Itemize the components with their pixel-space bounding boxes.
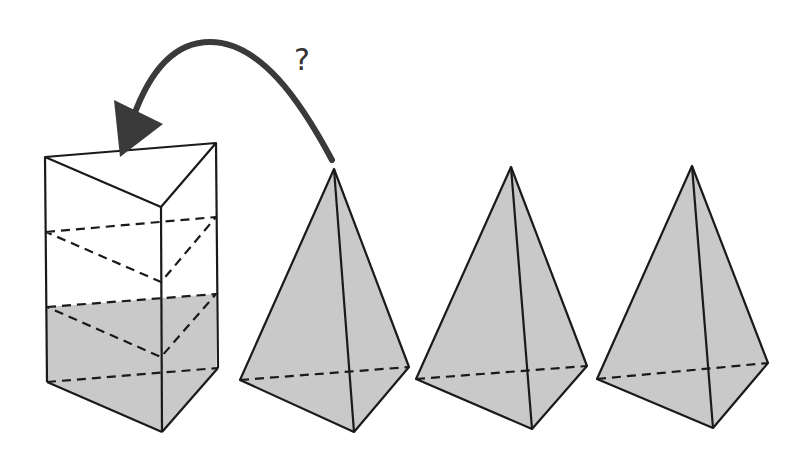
pyramid-2 [416,167,587,429]
prism-shaded-volume [47,294,216,432]
prism-edge [216,143,218,368]
question-mark-label: ? [294,42,310,77]
prism-edge [45,157,47,382]
prism-top-face [45,143,216,207]
diagram-canvas: ? [0,0,806,473]
pyramid-1 [240,169,409,432]
pyramid-3 [597,166,768,428]
triangular-prism [45,143,218,432]
prism-edge [161,207,162,432]
